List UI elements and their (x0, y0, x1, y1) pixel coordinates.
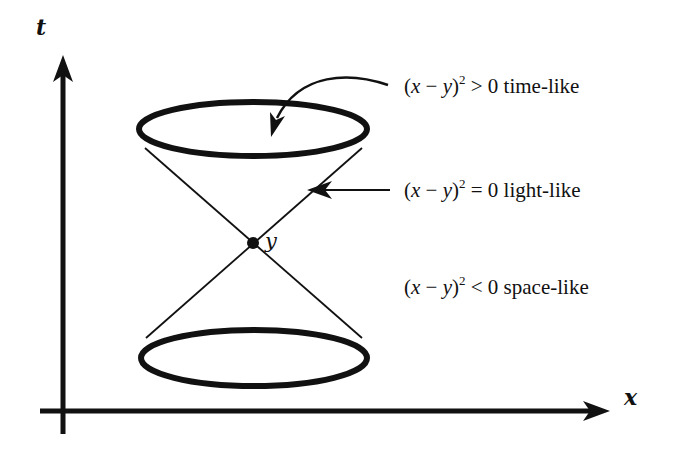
light-cone-diagram (0, 0, 700, 456)
x-axis-label: x (624, 386, 637, 408)
space-like-label: (x − y)2 < 0 space-like (404, 277, 589, 298)
light-like-pointer-arrow (307, 181, 390, 199)
t-axis (53, 55, 73, 434)
light-like-name: light-like (504, 178, 581, 202)
past-cone-ellipse (141, 330, 367, 386)
time-like-label: (x − y)2 > 0 time-like (404, 76, 579, 97)
t-axis-label: t (36, 16, 46, 38)
apex-label: y (265, 231, 277, 252)
time-like-name: time-like (504, 74, 580, 98)
future-cone-ellipse (139, 102, 367, 156)
space-like-name: space-like (504, 275, 589, 299)
apex-point (247, 237, 259, 249)
light-like-label: (x − y)2 = 0 light-like (404, 180, 581, 201)
x-axis (40, 401, 610, 421)
